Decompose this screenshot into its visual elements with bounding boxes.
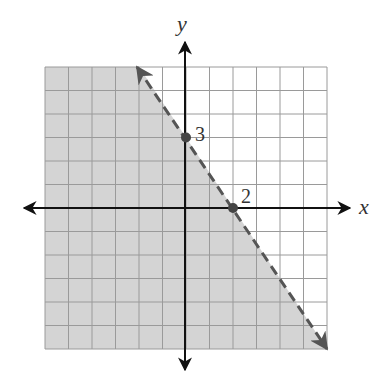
inequality-graph: 3 2 x y <box>0 0 389 378</box>
point-x-intercept <box>228 203 238 213</box>
y-intercept-label: 3 <box>195 123 205 145</box>
y-axis-label: y <box>175 11 187 36</box>
x-axis-label: x <box>358 194 369 219</box>
point-y-intercept <box>181 133 191 143</box>
x-intercept-label: 2 <box>241 185 251 207</box>
